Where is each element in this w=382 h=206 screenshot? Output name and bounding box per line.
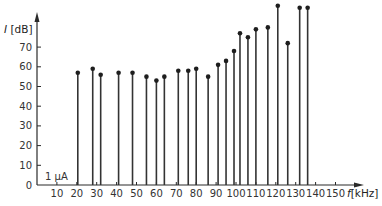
y-tick-label: 60: [19, 61, 32, 72]
stem-marker-icon: [116, 70, 121, 75]
x-tick-label: 100: [226, 188, 245, 199]
x-axis-title: f[kHz]: [347, 187, 378, 199]
x-tick-label: 60: [150, 188, 163, 199]
stem-marker-icon: [305, 5, 310, 10]
stem-marker-icon: [232, 49, 237, 54]
stem-marker-icon: [130, 70, 135, 75]
y-axis-title: I [dB]: [4, 23, 33, 35]
y-tick-label: 0: [26, 180, 32, 191]
y-tick-label: 20: [19, 140, 32, 151]
stem-marker-icon: [90, 66, 95, 71]
x-tick-label: 110: [246, 188, 265, 199]
stem-marker-icon: [246, 35, 251, 40]
stem-marker-icon: [266, 25, 271, 30]
y-tick-label: 10: [19, 160, 32, 171]
x-tick-label: 130: [286, 188, 305, 199]
axes: [35, 12, 365, 188]
x-tick-label: 20: [70, 188, 83, 199]
stem-marker-icon: [186, 68, 191, 73]
stem-marker-icon: [176, 68, 181, 73]
x-tick-label: 140: [306, 188, 325, 199]
y-tick-label: 70: [19, 42, 32, 53]
x-tick-label: 50: [130, 188, 143, 199]
y-tick-label: 30: [19, 120, 32, 131]
x-tick-label: 120: [266, 188, 285, 199]
stem-chart: 0102030405060701020304050607080901001101…: [0, 0, 382, 206]
stem-marker-icon: [297, 5, 302, 10]
x-tick-label: 150: [326, 188, 345, 199]
stem-marker-icon: [75, 70, 80, 75]
y-tick-label: 50: [19, 81, 32, 92]
stem-marker-icon: [194, 66, 199, 71]
stem-marker-icon: [254, 27, 259, 32]
x-tick-label: 90: [210, 188, 223, 199]
stem-marker-icon: [224, 59, 229, 64]
stem-marker-icon: [275, 3, 280, 8]
stem-marker-icon: [162, 74, 167, 79]
y-axis-arrow-icon: [35, 12, 40, 22]
x-tick-label: 10: [51, 188, 64, 199]
x-tick-label: 70: [170, 188, 183, 199]
data-stems: [75, 3, 309, 185]
stem-marker-icon: [144, 74, 149, 79]
y-tick-label: 40: [19, 101, 32, 112]
stem-marker-icon: [206, 74, 211, 79]
axis-labels: 0102030405060701020304050607080901001101…: [4, 23, 378, 199]
x-tick-label: 80: [190, 188, 203, 199]
reference-annotation: 1 µA: [45, 171, 68, 182]
stem-marker-icon: [238, 31, 243, 36]
stem-marker-icon: [98, 72, 103, 77]
stem-marker-icon: [154, 78, 159, 83]
x-tick-label: 40: [110, 188, 123, 199]
stem-marker-icon: [216, 63, 221, 68]
stem-marker-icon: [285, 41, 290, 46]
x-tick-label: 30: [90, 188, 103, 199]
